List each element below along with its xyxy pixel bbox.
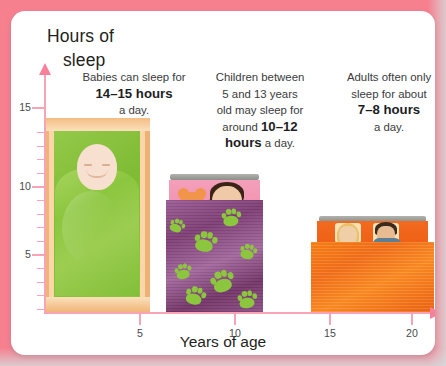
annotation-adults-strong: 7–8 hours bbox=[358, 102, 420, 117]
y-tick-label-5: 5 bbox=[11, 248, 31, 260]
baby-eye-right bbox=[102, 164, 110, 166]
annotation-children: Children between 5 and 13 years old may … bbox=[194, 69, 326, 152]
bar-children bbox=[166, 174, 263, 312]
paw-print-icon bbox=[182, 284, 206, 306]
y-minor-tick bbox=[37, 282, 45, 283]
pink-frame: Hours of sleep bbox=[0, 0, 446, 366]
cot-bottom-rail bbox=[44, 297, 150, 312]
paw-print-icon bbox=[167, 217, 186, 235]
bar-adults bbox=[311, 216, 434, 312]
x-axis-title: Years of age bbox=[11, 333, 435, 351]
y-minor-tick bbox=[37, 200, 45, 201]
plot-area: 15 10 5 5 10 15 20 Years of age bbox=[11, 11, 435, 355]
annotation-babies-post: a day. bbox=[119, 104, 149, 116]
x-major-tick-5 bbox=[139, 313, 141, 325]
annotation-babies: Babies can sleep for 14–15 hours a day. bbox=[59, 69, 209, 119]
x-axis-arrow-icon bbox=[430, 307, 435, 319]
adult-duvet bbox=[311, 242, 434, 312]
y-minor-tick bbox=[37, 309, 45, 310]
y-minor-tick bbox=[37, 132, 45, 133]
paw-print-icon bbox=[173, 262, 193, 280]
annotation-children-post: a day. bbox=[262, 137, 295, 149]
x-major-tick-10 bbox=[234, 313, 236, 325]
annotation-adults: Adults often only sleep for about 7–8 ho… bbox=[326, 69, 435, 135]
annotation-adults-pre: Adults often only sleep for about bbox=[347, 71, 431, 100]
annotation-adults-post: a day. bbox=[374, 121, 404, 133]
y-tick-label-10: 10 bbox=[11, 180, 31, 192]
bar-babies bbox=[44, 118, 150, 312]
y-axis-line bbox=[44, 73, 46, 314]
paw-print-icon bbox=[238, 243, 257, 261]
y-minor-tick bbox=[37, 227, 45, 228]
child-quilt bbox=[166, 200, 263, 312]
baby-eye-left bbox=[84, 164, 92, 166]
y-tick-label-15: 15 bbox=[11, 101, 31, 113]
y-major-tick-15 bbox=[32, 107, 45, 109]
chart-card: Hours of sleep bbox=[11, 11, 435, 355]
y-axis-arrow-icon bbox=[39, 63, 51, 75]
x-major-tick-15 bbox=[329, 313, 331, 325]
x-axis-line bbox=[44, 312, 434, 314]
baby-head bbox=[77, 144, 117, 190]
y-major-tick-10 bbox=[32, 186, 45, 188]
y-minor-tick bbox=[37, 295, 45, 296]
paw-print-icon bbox=[220, 208, 241, 227]
paw-print-icon bbox=[192, 230, 218, 253]
paw-print-icon bbox=[236, 290, 258, 310]
y-minor-tick bbox=[37, 214, 45, 215]
annotation-babies-strong: 14–15 hours bbox=[96, 86, 173, 101]
y-minor-tick bbox=[37, 241, 45, 242]
annotation-babies-pre: Babies can sleep for bbox=[82, 71, 185, 83]
y-minor-tick bbox=[37, 159, 45, 160]
x-major-tick-20 bbox=[411, 313, 413, 325]
y-minor-tick bbox=[37, 146, 45, 147]
y-minor-tick bbox=[37, 173, 45, 174]
y-minor-tick bbox=[37, 268, 45, 269]
cot-top-rail bbox=[44, 118, 150, 131]
y-major-tick-5 bbox=[32, 254, 45, 256]
paw-print-icon bbox=[207, 268, 236, 295]
